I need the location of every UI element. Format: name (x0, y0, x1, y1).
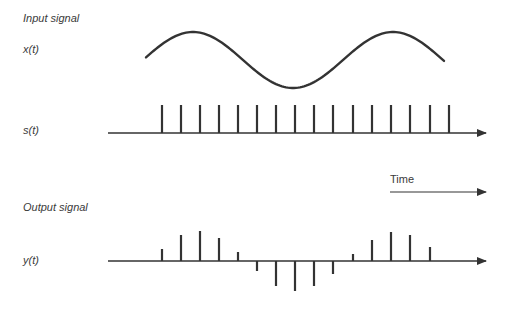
sampling-impulse-train (108, 105, 486, 133)
output-sampled-signal (108, 231, 486, 291)
sine-path (146, 32, 444, 88)
input-sine-curve (146, 32, 444, 88)
sampling-diagram (0, 0, 510, 316)
